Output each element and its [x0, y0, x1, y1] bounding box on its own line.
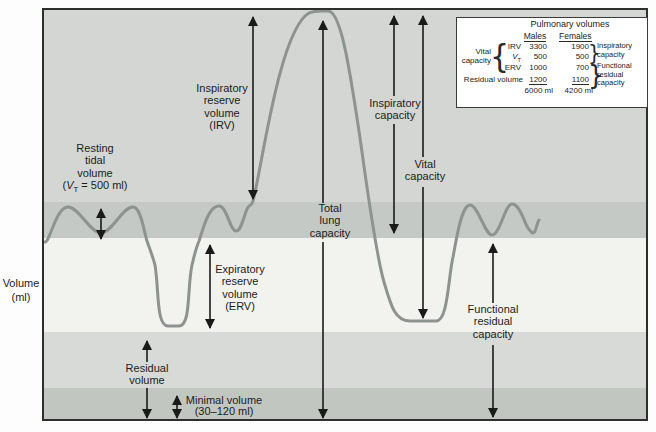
tidal-volume-formula: (VT = 500 ml)	[63, 179, 128, 191]
residual-males-value: 1200	[521, 76, 547, 85]
vt-females-value: 500	[561, 53, 589, 62]
note-inspiratory-capacity: Inspiratory capacity	[597, 42, 632, 59]
stub-residual-volume: Residual volume	[457, 76, 523, 85]
column-header-females: Females	[559, 32, 591, 41]
row-label-irv: IRV	[495, 43, 521, 52]
residual-volume-label: Residual volume	[117, 362, 177, 387]
row-label-vt: VT	[495, 53, 521, 63]
vital-capacity-label: Vital capacity	[395, 158, 455, 183]
residual-females-value: 1100	[561, 76, 589, 85]
total-lung-capacity-label: Total lung capacity	[295, 202, 365, 239]
pulmonary-volumes-figure: { "colors": { "band-a": "#d3d6d2", "band…	[0, 0, 656, 432]
vt-males-value: 500	[521, 53, 547, 62]
column-header-males: Males	[521, 32, 549, 41]
erv-males-value: 1000	[521, 64, 547, 73]
table-title: Pulmonary volumes	[495, 20, 645, 30]
total-females-value: 4200 ml	[553, 87, 593, 96]
stub-vital-capacity: Vital capacity	[457, 48, 491, 66]
functional-residual-capacity-label: Functional residual capacity	[453, 303, 533, 340]
irv-females-value: 1900	[561, 43, 589, 52]
resting-tidal-volume-label: Resting tidal volume (VT = 500 ml)	[45, 142, 145, 195]
y-axis-label: Volume (ml)	[0, 277, 42, 305]
row-label-erv: ERV	[495, 64, 521, 73]
total-males-value: 6000 ml	[507, 87, 553, 96]
note-functional-residual-capacity: Functional residual capacity	[597, 62, 632, 88]
pulmonary-volumes-table: Pulmonary volumes Males Females Vital ca…	[456, 17, 648, 108]
minimal-volume-label: Minimal volume (30–120 ml)	[174, 395, 274, 417]
erv-females-value: 700	[561, 64, 589, 73]
irv-males-value: 3300	[521, 43, 547, 52]
inspiratory-capacity-label: Inspiratory capacity	[355, 97, 435, 122]
expiratory-reserve-volume-label: Expiratory reserve volume (ERV)	[200, 263, 280, 312]
inspiratory-reserve-volume-label: Inspiratory reserve volume (IRV)	[182, 82, 262, 131]
